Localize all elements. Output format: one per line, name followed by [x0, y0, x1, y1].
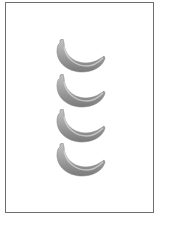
- banana-icon: [54, 74, 106, 108]
- banana-icon: [54, 143, 106, 177]
- banana-icon: [54, 39, 106, 73]
- banana-icon: [54, 109, 106, 143]
